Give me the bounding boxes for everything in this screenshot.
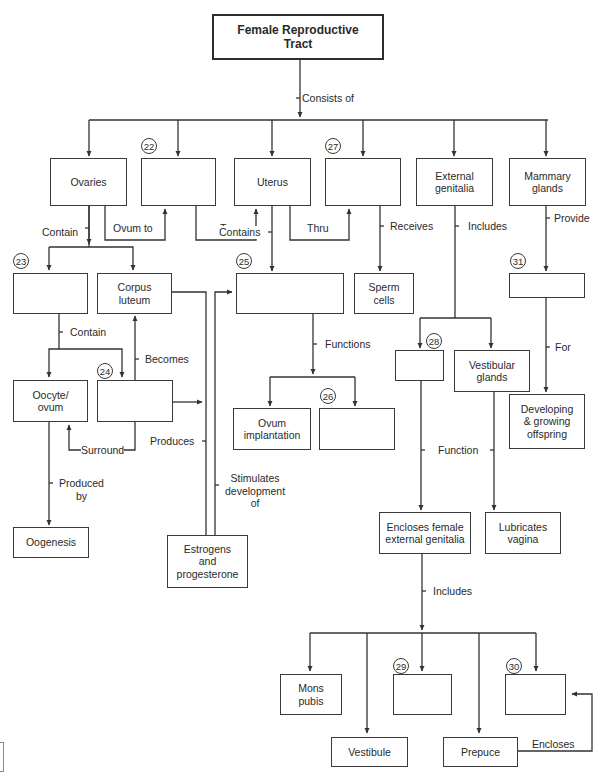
node-corpus-luteum: Corpus luteum <box>97 273 172 314</box>
node-sperm-cells: Sperm cells <box>354 273 414 314</box>
node-uterus: Uterus <box>234 158 311 206</box>
link-consists-of: Consists of <box>302 92 354 105</box>
blank-box-24[interactable] <box>97 380 173 422</box>
node-ovum-implantation: Ovum implantation <box>233 408 311 450</box>
link-stimulates-development: Stimulates development of <box>225 472 285 510</box>
number-22: 22 <box>141 138 157 154</box>
node-ovaries: Ovaries <box>50 158 127 206</box>
link-becomes: Becomes <box>145 353 189 366</box>
blank-box-28[interactable] <box>395 350 444 381</box>
node-lubricates-vagina: Lubricates vagina <box>485 512 561 554</box>
link-for: For <box>555 341 571 354</box>
number-25: 25 <box>236 253 252 269</box>
number-31: 31 <box>510 253 526 269</box>
cropped-edge-mark <box>0 742 4 772</box>
link-contain-23: Contain <box>70 326 106 339</box>
link-contains-uterus: Contains <box>219 226 260 239</box>
link-thru: Thru <box>307 222 329 235</box>
link-contain-ovaries: Contain <box>42 226 78 239</box>
node-vestibule: Vestibule <box>331 737 408 767</box>
blank-box-22[interactable] <box>141 158 216 206</box>
link-produced-by: Produced by <box>59 477 104 502</box>
blank-box-31[interactable] <box>509 273 585 298</box>
node-encloses-female-external-genitalia: Encloses female external genitalia <box>379 512 471 554</box>
link-function: Function <box>438 444 478 457</box>
link-ovum-to: Ovum to <box>113 222 153 235</box>
node-mons-pubis: Mons pubis <box>280 674 342 715</box>
node-oogenesis: Oogenesis <box>13 527 89 558</box>
node-developing-offspring: Developing & growing offspring <box>509 394 585 449</box>
blank-box-29[interactable] <box>393 674 452 715</box>
link-encloses: Encloses <box>532 738 575 751</box>
link-provide: Provide <box>554 212 590 225</box>
number-28: 28 <box>426 333 442 349</box>
number-23: 23 <box>13 253 29 269</box>
link-surround: Surround <box>81 444 124 457</box>
link-functions: Functions <box>325 338 371 351</box>
number-26: 26 <box>320 388 336 404</box>
blank-box-25[interactable] <box>236 273 344 314</box>
link-includes-bottom: Includes <box>433 585 472 598</box>
number-29: 29 <box>393 658 409 674</box>
link-includes-external: Includes <box>468 220 507 233</box>
number-24: 24 <box>97 363 113 379</box>
blank-box-30[interactable] <box>505 674 566 715</box>
node-mammary-glands: Mammary glands <box>509 158 586 206</box>
number-30: 30 <box>506 658 522 674</box>
blank-box-26[interactable] <box>319 408 395 450</box>
node-prepuce: Prepuce <box>443 737 518 767</box>
title-box: Female Reproductive Tract <box>212 14 384 60</box>
link-receives: Receives <box>390 220 433 233</box>
blank-box-27[interactable] <box>325 158 401 206</box>
blank-box-23[interactable] <box>13 273 88 314</box>
link-produces: Produces <box>150 435 194 448</box>
node-external-genitalia: External genitalia <box>416 158 493 206</box>
node-estrogens-progesterone: Estrogens and progesterone <box>167 535 248 588</box>
node-vestibular-glands: Vestibular glands <box>454 350 530 392</box>
number-27: 27 <box>325 138 341 154</box>
node-oocyte-ovum: Oocyte/ ovum <box>13 380 88 422</box>
